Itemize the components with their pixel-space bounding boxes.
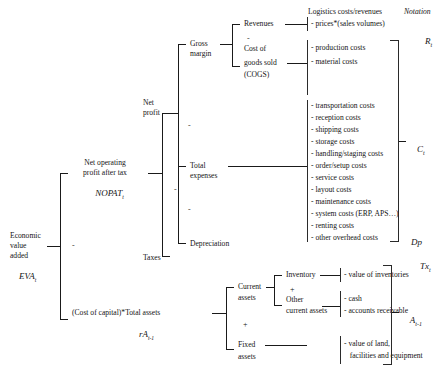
rule-revenues-items [307, 17, 308, 31]
brace-gross-margin-split [232, 24, 240, 67]
brace-notation-costs-stem [399, 141, 406, 142]
item-expenses-2: - shipping costs [311, 125, 359, 135]
rule-cogs-items [307, 40, 308, 95]
capital-charge-formula: rAt-1 [72, 320, 212, 353]
cogs-label-line3: (COGS) [244, 70, 269, 80]
operator-inventory-plus: + [290, 285, 295, 294]
brace-nopat-split [162, 113, 170, 257]
connector-cogs [287, 63, 307, 64]
operator-eva-minus: - [72, 241, 75, 250]
root-label-line1: Economic [10, 231, 41, 241]
depreciation-label: Depreciation [190, 239, 229, 249]
nopat-formula: NOPATt [62, 179, 148, 212]
root-formula: EVAt [10, 262, 36, 295]
item-other-current-1: - accounts receivable [344, 306, 408, 316]
item-expenses-9: - system costs (ERP, APS…) [311, 209, 399, 219]
brace-notation-assets-stem [392, 312, 399, 313]
notation-depreciation: Dp [411, 237, 422, 247]
connector-nopat [148, 173, 162, 174]
eva-tree-diagram: Logistics costs/revenues Notation Econom… [0, 0, 447, 372]
root-label-line3: added [10, 251, 28, 261]
operator-net-profit-minus2: - [188, 205, 191, 214]
notation-costs: Ct [408, 134, 425, 168]
cogs-label-line2: goods sold [244, 58, 277, 68]
cogs-label-line1: Cost of [244, 44, 266, 54]
item-cogs-0: - production costs [311, 43, 365, 53]
root-formula-text: EVA [19, 271, 35, 281]
fixed-assets-label-line1: Fixed [238, 340, 255, 350]
column-header-notation: Notation [404, 7, 431, 16]
root-formula-subscript: t [35, 276, 37, 282]
notation-revenues-subscript: t [431, 42, 433, 48]
brace-current-assets-split [274, 275, 282, 306]
brace-notation-costs [390, 40, 399, 242]
item-expenses-7: - layout costs [311, 185, 352, 195]
connector-other-current-assets [322, 306, 340, 307]
capital-charge-formula-subscript: t-1 [148, 334, 154, 340]
notation-assets-subscript: t-1 [415, 321, 422, 327]
connector-inventory [320, 275, 340, 276]
item-expenses-0: - transportation costs [311, 101, 375, 111]
current-assets-label-line1: Current [238, 282, 261, 292]
brace-notation-assets [383, 265, 392, 365]
net-profit-label-line2: profit [143, 108, 160, 118]
notation-taxes-subscript: t [429, 267, 431, 273]
other-current-assets-label-line2: current assets [286, 306, 327, 316]
item-expenses-3: - storage costs [311, 137, 354, 147]
nopat-formula-subscript: t [122, 193, 124, 199]
operator-assets-plus: + [243, 320, 248, 329]
connector-root [47, 246, 60, 247]
connector-gross-margin [220, 44, 232, 45]
brace-tick-total-expenses [178, 166, 186, 167]
notation-taxes-text: Tx [420, 261, 429, 271]
revenues-label: Revenues [244, 19, 274, 29]
item-expenses-11: - other overhead costs [311, 233, 378, 243]
nopat-label-line1: Net operating [62, 158, 148, 168]
fixed-assets-label-line2: assets [238, 352, 256, 362]
rule-expenses-items [307, 100, 308, 242]
item-expenses-8: - maintenance costs [311, 197, 371, 207]
brace-net-profit-split [178, 44, 186, 244]
nopat-label-line2: profit after tax [62, 168, 148, 178]
capital-charge-label: (Cost of capital)*Total assets [72, 308, 160, 318]
operator-net-profit-minus1: - [188, 121, 191, 130]
item-expenses-1: - reception costs [311, 113, 361, 123]
rule-other-current-items [340, 291, 341, 317]
notation-taxes: Txt [411, 251, 431, 285]
total-expenses-label-line2: expenses [190, 171, 217, 181]
gross-margin-label-line1: Gross [190, 39, 208, 49]
rule-inventory-items [340, 268, 341, 282]
item-expenses-4: - handling/staging costs [311, 149, 383, 159]
item-other-current-0: - cash [344, 294, 362, 304]
net-profit-label-line1: Net [143, 98, 154, 108]
item-expenses-6: - service costs [311, 173, 354, 183]
taxes-label: Taxes [143, 253, 161, 263]
connector-revenues [285, 24, 307, 25]
other-current-assets-label-line1: Other [286, 295, 303, 305]
item-inventory-0: - value of inventories [344, 270, 409, 280]
item-cogs-1: - material costs [311, 57, 357, 67]
capital-charge-formula-text: rA [139, 329, 148, 339]
connector-current-assets [266, 287, 274, 288]
notation-costs-subscript: t [423, 150, 425, 156]
gross-margin-label-line2: margin [190, 49, 211, 59]
connector-capital-charge [212, 313, 226, 314]
operator-gross-margin-minus: - [247, 34, 250, 43]
inventory-label: Inventory [286, 270, 316, 280]
item-revenues-0: - prices*(sales volumes) [311, 19, 385, 29]
rule-fixed-items [340, 336, 341, 364]
current-assets-label-line2: assets [238, 293, 256, 303]
item-expenses-5: - order/setup costs [311, 161, 367, 171]
operator-nopat-minus: - [174, 185, 177, 194]
connector-net-profit [168, 113, 178, 114]
brace-total-assets-split [226, 287, 234, 350]
notation-revenues: Rt [416, 26, 432, 60]
column-header-logistics: Logistics costs/revenues [308, 7, 382, 16]
connector-total-expenses [228, 166, 307, 167]
total-expenses-label-line1: Total [190, 161, 206, 171]
root-label-line2: value [10, 241, 26, 251]
nopat-formula-text: NOPAT [95, 188, 122, 198]
notation-assets: At-1 [401, 305, 422, 339]
item-expenses-10: - renting costs [311, 221, 354, 231]
connector-fixed-assets [265, 345, 307, 346]
